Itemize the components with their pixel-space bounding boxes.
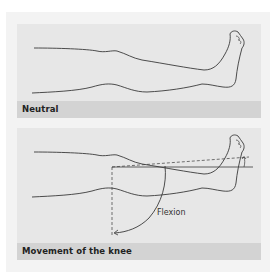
movement-caption: Movement of the knee (22, 246, 132, 256)
neutral-caption: Neutral (22, 104, 59, 114)
knee-flexion-illustration (17, 128, 261, 243)
movement-panel: Flexion (17, 128, 261, 243)
hyperextension-dashed-line (112, 157, 249, 167)
movement-caption-bar: Movement of the knee (17, 243, 261, 260)
neutral-panel (17, 24, 261, 101)
flexion-arc (115, 166, 165, 233)
neutral-leg-illustration (17, 24, 261, 101)
flexion-label: Flexion (157, 208, 186, 217)
neutral-caption-bar: Neutral (17, 101, 261, 118)
